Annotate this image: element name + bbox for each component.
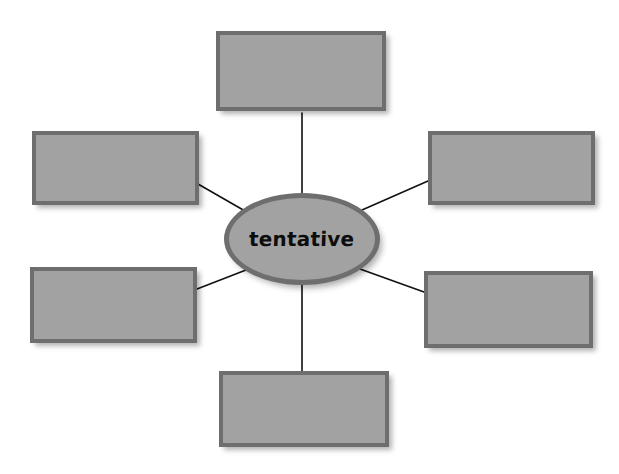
box-top-left[interactable]	[32, 131, 199, 205]
link-bottom-left	[197, 270, 246, 289]
word-web-canvas: tentative	[0, 0, 619, 474]
box-bottom-left[interactable]	[30, 267, 197, 343]
box-top[interactable]	[216, 31, 386, 111]
link-top-right	[362, 181, 428, 210]
box-top-right[interactable]	[428, 131, 595, 205]
center-node-label: tentative	[249, 227, 355, 251]
center-node-ellipse[interactable]: tentative	[224, 193, 380, 285]
link-top-left	[198, 184, 245, 211]
link-bottom-right	[360, 269, 424, 292]
box-bottom-right[interactable]	[424, 271, 593, 348]
box-bottom[interactable]	[219, 371, 389, 447]
